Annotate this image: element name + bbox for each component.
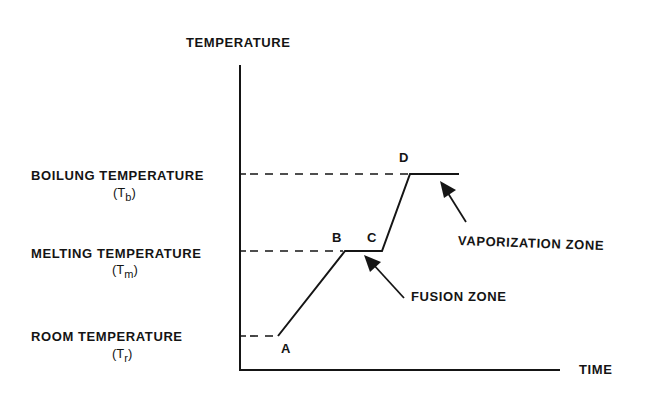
fusion-zone-annotation: FUSION ZONE [411, 289, 506, 304]
vaporization-arrow-shaft [446, 190, 466, 222]
point-a-label: A [281, 341, 290, 356]
vaporization-arrow-head-icon [440, 181, 456, 198]
x-axis-title: TIME [579, 362, 612, 377]
fusion-arrow-shaft [372, 263, 404, 298]
point-c-label: C [367, 230, 376, 245]
point-d-label: D [399, 150, 408, 165]
melting-temperature-symbol: (Tm) [112, 262, 138, 280]
y-axis-title: TEMPERATURE [186, 35, 291, 50]
boiling-temperature-label: BOILUNG TEMPERATURE [31, 168, 204, 183]
boiling-temperature-symbol: (Tb) [113, 185, 136, 203]
point-b-label: B [332, 230, 341, 245]
melting-temperature-label: MELTING TEMPERATURE [31, 246, 202, 261]
heating-curve [278, 174, 459, 336]
room-temperature-label: ROOM TEMPERATURE [31, 329, 183, 344]
room-temperature-symbol: (Tr) [112, 346, 132, 364]
